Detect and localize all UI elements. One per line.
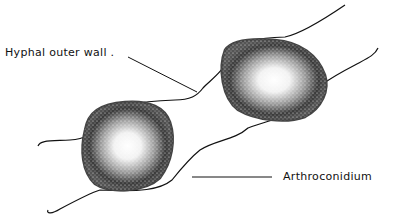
hyphal-wall-leader-line [128, 57, 197, 92]
arthroconidium-diagram [0, 0, 403, 223]
arthroconidium-label: Arthroconidium [283, 170, 372, 183]
right-arthroconidium [222, 39, 327, 120]
hyphal-outer-wall-label: Hyphal outer wall . [5, 46, 114, 59]
left-arthroconidium [82, 102, 172, 191]
